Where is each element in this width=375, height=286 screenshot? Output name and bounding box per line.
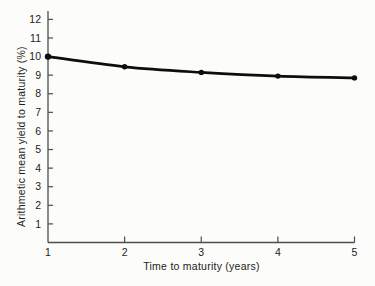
y-tick-label: 4 (35, 162, 41, 174)
y-tick-label: 12 (29, 13, 41, 25)
y-axis-title: Arithmetic mean yield to maturity (%) (15, 46, 27, 227)
yield-curve-figure: 12345678910111212345 Arithmetic mean yie… (0, 0, 375, 286)
data-point-marker (199, 70, 204, 75)
y-tick-label: 5 (35, 143, 41, 155)
y-tick-label: 9 (35, 69, 41, 81)
y-tick-label: 11 (30, 32, 41, 44)
x-tick-label: 2 (122, 246, 128, 258)
x-axis-title: Time to maturity (years) (48, 260, 355, 272)
data-point-marker (45, 53, 51, 59)
data-point-marker (352, 75, 357, 80)
y-tick-label: 7 (35, 106, 41, 118)
x-tick-label: 5 (352, 246, 358, 258)
data-point-marker (275, 73, 280, 78)
y-tick-label: 3 (35, 180, 41, 192)
x-tick-label: 4 (275, 246, 281, 258)
y-tick-label: 10 (29, 50, 41, 62)
x-tick-label: 3 (198, 246, 204, 258)
x-tick-label: 1 (45, 246, 51, 258)
y-tick-label: 2 (35, 199, 41, 211)
y-tick-label: 8 (35, 87, 41, 99)
line-chart-canvas: 12345678910111212345 (0, 0, 375, 286)
data-point-marker (122, 64, 127, 69)
y-tick-label: 1 (35, 218, 41, 230)
y-tick-label: 6 (35, 125, 41, 137)
